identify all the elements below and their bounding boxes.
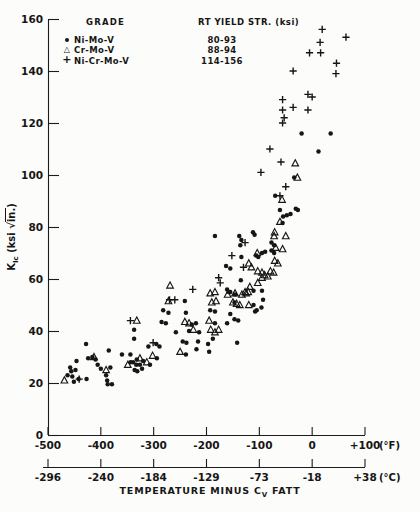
x-f-tick-label: -200 [193,439,219,451]
c-unit-label: (°C) [379,472,400,483]
data-point-Ni-Mo-V [208,308,213,313]
data-point-Ni-Cr-Mo-V [290,67,297,74]
data-point-Ni-Mo-V [263,249,268,254]
data-point-Ni-Mo-V [70,374,75,379]
data-point-Ni-Mo-V [213,321,218,326]
data-point-Ni-Mo-V [132,327,137,332]
data-point-Ni-Mo-V [74,359,79,364]
x-f-tick-label: -100 [246,439,272,451]
y-tick-label: 120 [21,117,43,129]
data-point-Ni-Cr-Mo-V [76,376,83,383]
data-point-Ni-Mo-V [196,339,201,344]
x-axis-title: TEMPERATURE MINUS CV FATT [95,485,325,499]
data-point-Ni-Mo-V [224,264,229,269]
data-point-Ni-Mo-V [254,308,259,313]
filled-circle-icon [60,38,74,43]
legend-row-ni-cr-mo-v: + Ni-Cr-Mo-V [60,56,129,66]
data-point-Ni-Cr-Mo-V [228,252,235,259]
y-tick-label: 20 [28,377,43,389]
data-point-Ni-Mo-V [184,311,189,316]
data-point-Ni-Cr-Mo-V [342,34,349,41]
data-point-Ni-Cr-Mo-V [276,192,283,199]
data-point-Cr-Mo-V [190,326,197,332]
data-point-Ni-Cr-Mo-V [282,183,289,190]
data-point-Ni-Mo-V [95,363,100,368]
data-point-Cr-Mo-V [247,283,254,289]
data-point-Ni-Mo-V [239,278,244,283]
data-point-Ni-Mo-V [84,342,89,347]
y-tick-label: 60 [28,273,43,285]
data-point-Ni-Mo-V [105,382,110,387]
y-tick-label: 100 [21,169,43,181]
data-point-Ni-Mo-V [316,149,321,154]
data-point-Ni-Mo-V [159,320,164,325]
data-point-Cr-Mo-V [215,326,222,332]
data-point-Cr-Mo-V [279,246,286,252]
data-point-Ni-Cr-Mo-V [306,49,313,56]
x-c-tick-label: -129 [193,471,219,483]
data-point-Ni-Cr-Mo-V [319,26,326,33]
data-point-Cr-Mo-V [149,352,156,358]
data-point-Ni-Mo-V [272,251,277,256]
data-point-Cr-Mo-V [206,317,213,323]
legend-grade-header: GRADE [86,17,125,27]
data-point-Cr-Mo-V [213,298,220,304]
data-point-Ni-Mo-V [65,373,70,378]
data-point-Ni-Mo-V [236,318,241,323]
data-point-Ni-Mo-V [72,379,77,384]
y-tick-label: 140 [21,65,43,77]
data-point-Cr-Mo-V [282,233,289,239]
data-point-Ni-Mo-V [259,305,264,310]
f-unit-label: (°F) [379,440,400,451]
data-point-Ni-Mo-V [296,208,301,213]
data-point-Ni-Mo-V [235,340,240,345]
legend-yield-column: 80-93 88-94 114-156 [194,35,250,66]
x-f-tick-label: +100 [350,439,381,451]
data-point-Ni-Mo-V [107,348,112,353]
data-point-Ni-Mo-V [328,131,333,136]
data-point-Ni-Mo-V [164,321,169,326]
data-point-Ni-Mo-V [86,356,91,361]
chart-svg: 020406080100120140160-500-400-300-200-10… [0,0,420,512]
x-f-tick-label: 0 [309,439,316,451]
data-point-Cr-Mo-V [212,288,219,294]
legend-row-ni-mo-v: Ni-Mo-V [60,35,129,45]
data-point-Ni-Cr-Mo-V [266,145,273,152]
data-point-Ni-Mo-V [69,369,74,374]
data-point-Ni-Mo-V [194,347,199,352]
data-point-Ni-Cr-Mo-V [317,49,324,56]
legend-yield-header: RT YIELD STR. (ksi) [198,17,299,27]
data-point-Ni-Mo-V [132,337,137,342]
data-point-Ni-Mo-V [108,365,113,370]
data-point-Ni-Mo-V [228,312,233,317]
data-point-Ni-Cr-Mo-V [279,106,286,113]
yield-value: 114-156 [194,56,250,66]
data-point-Ni-Mo-V [260,288,265,293]
y-axis-title: KIc (ksi √in.) [6,172,22,302]
data-point-Ni-Mo-V [146,344,151,349]
data-point-Ni-Mo-V [105,378,110,383]
data-point-Ni-Mo-V [157,344,162,349]
data-point-Cr-Mo-V [248,264,255,270]
x-c-tick-label: -18 [303,471,322,483]
data-point-Ni-Mo-V [140,366,145,371]
kic-vs-fatt-scatter-figure: 020406080100120140160-500-400-300-200-10… [0,0,420,512]
data-point-Cr-Mo-V [177,348,184,354]
data-point-Ni-Mo-V [194,321,199,326]
x-c-tick-label: -296 [35,471,61,483]
data-point-Ni-Mo-V [225,321,230,326]
data-point-Ni-Mo-V [206,342,211,347]
legend-grade-column: Ni-Mo-V △ Cr-Mo-V + Ni-Cr-Mo-V [60,35,129,66]
data-point-Ni-Mo-V [211,337,216,342]
data-point-Ni-Mo-V [174,330,179,335]
data-point-Ni-Cr-Mo-V [279,119,286,126]
data-point-Ni-Cr-Mo-V [277,158,284,165]
x-f-tick-label: -400 [88,439,114,451]
data-point-Ni-Mo-V [183,299,188,304]
data-point-Ni-Mo-V [104,373,109,378]
x-f-tick-label: -500 [35,439,61,451]
data-point-Ni-Mo-V [138,363,143,368]
data-point-Ni-Mo-V [261,298,266,303]
data-point-Cr-Mo-V [292,160,299,166]
data-point-Cr-Mo-V [165,298,172,304]
